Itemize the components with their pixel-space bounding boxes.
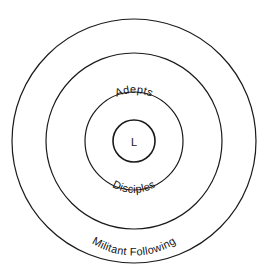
diagram-canvas: L Adepts Disciples Militant Following Pa…	[0, 0, 270, 279]
label-militant-following-textpath: Militant Following	[90, 234, 177, 257]
core-label: L	[131, 136, 137, 148]
label-disciples: Disciples	[111, 178, 158, 195]
label-militant-following: Militant Following	[90, 234, 177, 257]
label-adepts: Adepts	[113, 83, 155, 99]
label-disciples-textpath: Disciples	[111, 178, 158, 195]
label-adepts-textpath: Adepts	[113, 83, 155, 99]
concentric-circles-diagram: L Adepts Disciples Militant Following Pa…	[0, 0, 270, 279]
